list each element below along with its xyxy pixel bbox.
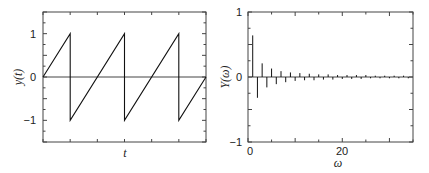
right-ylabel: Y(ω) bbox=[218, 65, 232, 88]
left-xlabel: t bbox=[123, 146, 127, 160]
right-ytick-1: 1 bbox=[236, 6, 242, 18]
left-ylabel: y(t) bbox=[11, 69, 25, 87]
figure: 1 0 −1 y(t) t 1 0 −1 0 20 Y(ω) ω bbox=[0, 0, 429, 173]
right-xlabel: ω bbox=[334, 156, 342, 170]
left-ytick-0: 0 bbox=[30, 71, 36, 83]
left-ytick-1: 1 bbox=[30, 28, 36, 40]
left-ytick-neg1: −1 bbox=[23, 114, 36, 126]
right-ytick-neg1: −1 bbox=[229, 136, 242, 148]
right-xtick-0: 0 bbox=[247, 145, 253, 157]
left-plot: 1 0 −1 y(t) t bbox=[11, 12, 206, 160]
stem-series bbox=[253, 35, 409, 97]
right-ytick-0: 0 bbox=[236, 71, 242, 83]
right-plot: 1 0 −1 0 20 Y(ω) ω bbox=[218, 6, 413, 170]
